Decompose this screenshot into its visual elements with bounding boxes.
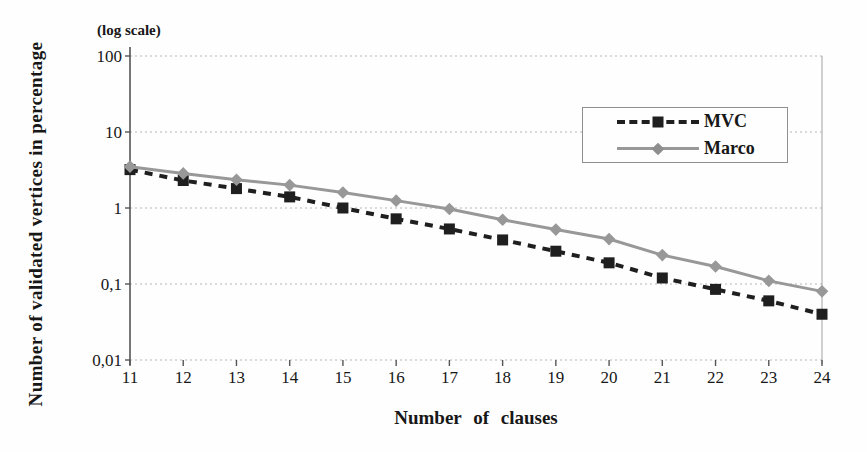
marco-marker	[496, 213, 509, 226]
x-tick-label: 24	[814, 368, 832, 387]
marco-marker	[337, 186, 350, 199]
legend-item-marco: Marco	[583, 135, 787, 162]
mvc-marker	[391, 213, 402, 224]
plot-area: 1001010,10,01111213141516171819202122232…	[0, 0, 867, 452]
marco-marker	[443, 203, 456, 216]
x-tick-label: 13	[228, 368, 245, 387]
x-tick-label: 18	[494, 368, 511, 387]
mvc-marker	[497, 234, 508, 245]
marco-marker	[656, 249, 669, 262]
mvc-marker	[444, 223, 455, 234]
x-tick-label: 21	[654, 368, 671, 387]
marco-marker	[603, 233, 616, 246]
marco-marker	[709, 260, 722, 273]
mvc-marker	[550, 246, 561, 257]
marco-marker	[283, 179, 296, 192]
x-axis-title: Number of clauses	[130, 407, 822, 429]
x-tick-label: 15	[334, 368, 351, 387]
mvc-marker	[657, 272, 668, 283]
y-tick-label: 0,01	[92, 351, 122, 370]
x-tick-label: 22	[707, 368, 724, 387]
marco-marker	[762, 275, 775, 288]
legend-label-marco: Marco	[704, 138, 755, 159]
x-tick-label: 12	[175, 368, 192, 387]
y-tick-label: 0,1	[101, 275, 122, 294]
y-axis-title: Number of validated vertices in percenta…	[25, 24, 49, 424]
marco-marker	[550, 223, 563, 236]
x-tick-label: 11	[122, 368, 138, 387]
chart-figure: 1001010,10,01111213141516171819202122232…	[0, 0, 867, 452]
mvc-marker	[710, 284, 721, 295]
mvc-marker	[337, 203, 348, 214]
mvc-marker	[604, 257, 615, 268]
x-tick-label: 23	[760, 368, 777, 387]
marco-marker	[816, 285, 829, 298]
mvc-marker	[817, 309, 828, 320]
mvc-dashed-line-sample	[617, 120, 699, 124]
marco-marker	[390, 194, 403, 207]
legend-label-mvc: MVC	[704, 111, 747, 132]
y-tick-label: 100	[97, 47, 123, 66]
diamond-marker-icon	[652, 143, 665, 156]
x-tick-label: 17	[441, 368, 459, 387]
square-marker-icon	[653, 116, 664, 127]
y-tick-label: 1	[114, 199, 123, 218]
log-scale-note: (log scale)	[97, 22, 161, 39]
mvc-marker	[763, 295, 774, 306]
marco-solid-line-sample	[617, 147, 699, 150]
legend-item-mvc: MVC	[583, 108, 787, 135]
y-tick-label: 10	[105, 123, 122, 142]
mvc-marker	[284, 191, 295, 202]
legend: MVC Marco	[582, 107, 788, 163]
x-tick-label: 14	[281, 368, 299, 387]
x-tick-label: 20	[601, 368, 618, 387]
x-tick-label: 19	[547, 368, 564, 387]
x-tick-label: 16	[388, 368, 405, 387]
